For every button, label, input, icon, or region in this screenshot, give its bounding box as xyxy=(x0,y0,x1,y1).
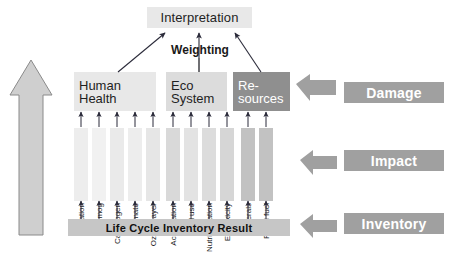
environmental-mechanism-label-wrap: Environmental mechanism xyxy=(12,60,50,235)
impact-bar-acidification xyxy=(166,128,180,201)
impact-to-damage-arrows xyxy=(81,112,266,127)
tier-label-inventory-text: Inventory xyxy=(362,216,427,232)
damage-box-human-health: Human Health xyxy=(74,72,156,111)
tier-arrow-damage xyxy=(296,74,336,101)
impact-bar-carcinogen xyxy=(110,128,124,201)
interpretation-box: Interpretation xyxy=(147,7,252,28)
tier-label-damage: Damage xyxy=(344,82,444,103)
weighting-label-group: Weighting xyxy=(155,42,245,58)
damage-box-eco-system-line1: Eco xyxy=(171,79,193,92)
impact-bar-radiation xyxy=(74,128,88,201)
impact-bar-minerals xyxy=(241,128,255,201)
impact-bar-climate xyxy=(128,128,142,201)
life-cycle-inventory-result-label: Life Cycle Inventory Result xyxy=(106,222,253,234)
life-cycle-inventory-result-bar: Life Cycle Inventory Result xyxy=(68,219,290,236)
inventory-to-impact-arrows xyxy=(81,201,266,219)
damage-box-resources-line2: sources xyxy=(238,92,284,105)
impact-bar-ecotoxicity xyxy=(220,128,234,201)
weighting-label: Weighting xyxy=(171,43,229,57)
damage-box-resources: Re- sources xyxy=(233,72,290,111)
damage-box-eco-system: Eco System xyxy=(166,72,227,111)
impact-bar-nutriphication xyxy=(202,128,216,201)
damage-box-human-health-line2: Health xyxy=(79,92,117,105)
impact-bar-land-use xyxy=(184,128,198,201)
interpretation-label: Interpretation xyxy=(160,10,238,25)
damage-box-eco-system-line2: System xyxy=(171,92,214,105)
tier-label-inventory: Inventory xyxy=(344,213,444,234)
damage-box-human-health-line1: Human xyxy=(79,79,121,92)
damage-box-resources-line1: Re- xyxy=(238,79,259,92)
environmental-mechanism-arrow xyxy=(10,60,52,235)
tier-arrow-inventory xyxy=(300,214,337,238)
impact-bar-fossil-fuel xyxy=(259,128,273,201)
environmental-mechanism-label: Environmental mechanism xyxy=(25,83,37,213)
tier-arrow-impact xyxy=(300,150,337,175)
tier-label-impact-text: Impact xyxy=(371,153,417,169)
tier-label-impact: Impact xyxy=(344,150,444,171)
tier-label-damage-text: Damage xyxy=(366,85,422,101)
impact-bar-ozone-layer xyxy=(146,128,160,201)
impact-bar-smog xyxy=(92,128,106,201)
